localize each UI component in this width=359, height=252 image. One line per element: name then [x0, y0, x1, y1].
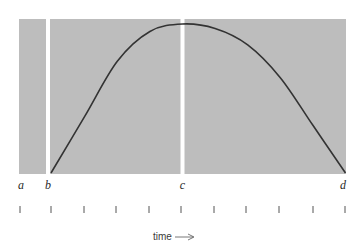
time-ticks: [20, 206, 345, 213]
marker-label-a: a: [18, 178, 24, 192]
marker-label-c: c: [180, 178, 186, 192]
divider-c: [181, 19, 185, 174]
panels: [19, 19, 346, 174]
diagram: abcd time: [0, 0, 359, 252]
marker-label-d: d: [340, 178, 347, 192]
marker-labels: abcd: [18, 178, 347, 192]
time-label: time: [153, 231, 172, 242]
divider-b: [46, 19, 50, 174]
marker-label-b: b: [45, 178, 51, 192]
time-axis-label: time: [153, 231, 194, 242]
